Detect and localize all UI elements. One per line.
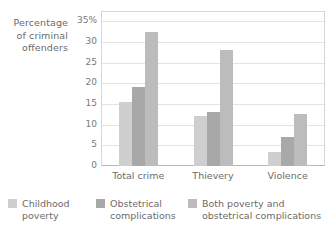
y-axis-tick-label: 15: [57, 99, 97, 108]
bar: [220, 50, 233, 166]
bars-layer: [101, 11, 325, 166]
legend-swatch-icon: [8, 199, 17, 208]
legend-item-label: Both poverty and obstetrical complicatio…: [202, 198, 321, 223]
y-axis-tick-label: 5: [57, 140, 97, 149]
y-axis-tick-label: 35%: [57, 16, 97, 25]
bar: [268, 152, 281, 166]
legend-item-label: Childhood poverty: [22, 198, 70, 223]
legend-swatch-icon: [96, 199, 105, 208]
x-axis-tick-label: Violence: [250, 170, 325, 181]
chart-legend: Childhood povertyObstetrical complicatio…: [0, 198, 334, 239]
bar: [145, 32, 158, 166]
bar: [281, 137, 294, 166]
y-axis-tick-label: 0: [57, 161, 97, 170]
y-axis-tick-label: 20: [57, 78, 97, 87]
x-axis-tick-label: Total crime: [101, 170, 176, 181]
bar: [194, 116, 207, 166]
legend-item[interactable]: Both poverty and obstetrical complicatio…: [188, 198, 321, 223]
bar: [294, 114, 307, 166]
bar: [119, 102, 132, 166]
legend-item[interactable]: Obstetrical complications: [96, 198, 176, 223]
y-axis-tick-label: 25: [57, 58, 97, 67]
legend-item[interactable]: Childhood poverty: [8, 198, 70, 223]
bar: [132, 87, 145, 166]
legend-item-label: Obstetrical complications: [110, 198, 176, 223]
bar: [207, 112, 220, 166]
bar-chart: Percentage of criminal offenders 0510152…: [0, 0, 334, 239]
legend-swatch-icon: [188, 199, 197, 208]
y-axis-tick-label: 30: [57, 37, 97, 46]
y-axis-tick-label: 10: [57, 120, 97, 129]
x-axis-tick-label: Thievery: [176, 170, 251, 181]
